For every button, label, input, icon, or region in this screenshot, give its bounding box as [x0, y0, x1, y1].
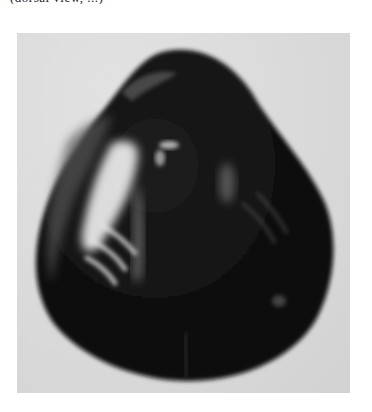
shell-illustration	[17, 33, 350, 393]
clipped-caption: (dorsal view, ...)	[0, 0, 372, 4]
caption-text: (dorsal view, ...)	[0, 0, 103, 4]
shell-photo	[17, 33, 350, 393]
